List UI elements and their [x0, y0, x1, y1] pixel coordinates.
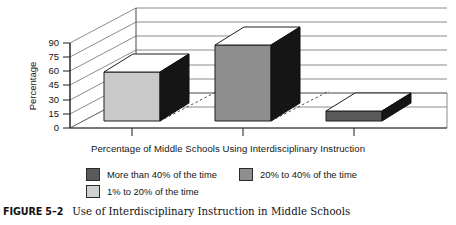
figure-caption-text: Use of Interdisciplinary Instruction in …	[72, 206, 350, 217]
chart-plot-area: 90 75 60 45 30 15 0 Percentage	[0, 0, 456, 140]
legend-entry-more-than-40[interactable]: More than 40% of the time	[86, 168, 217, 181]
legend-entry-20-to-40[interactable]: 20% to 40% of the time	[239, 168, 357, 181]
legend-label-1-to-20: 1% to 20% of the time	[107, 186, 199, 197]
bar-chart-svg: 90 75 60 45 30 15 0 Percentage	[0, 0, 456, 142]
legend-swatch-more-than-40	[86, 168, 100, 181]
legend-label-20-to-40: 20% to 40% of the time	[260, 169, 357, 180]
bar-3	[326, 93, 411, 121]
figure-number-label: FIGURE 5–2	[3, 206, 63, 217]
y-axis-ticks	[63, 43, 70, 128]
y-tick-label-75: 75	[48, 51, 59, 62]
figure-caption: FIGURE 5–2 Use of Interdisciplinary Inst…	[3, 206, 350, 217]
y-tick-label-0: 0	[54, 122, 59, 133]
x-axis-ticks	[132, 128, 354, 136]
figure-container: 90 75 60 45 30 15 0 Percentage Percentag…	[0, 0, 456, 225]
x-axis-title: Percentage of Middle Schools Using Inter…	[0, 143, 456, 154]
legend-entry-1-to-20[interactable]: 1% to 20% of the time	[86, 185, 199, 198]
y-tick-label-60: 60	[48, 65, 59, 76]
legend-label-more-than-40: More than 40% of the time	[107, 169, 217, 180]
bar-2	[215, 27, 300, 121]
legend-swatch-20-to-40	[239, 168, 253, 181]
y-tick-label-30: 30	[48, 94, 59, 105]
y-tick-label-45: 45	[48, 79, 59, 90]
legend-swatch-1-to-20	[86, 185, 100, 198]
chart-legend: More than 40% of the time 20% to 40% of …	[86, 166, 386, 200]
y-tick-label-15: 15	[48, 108, 59, 119]
y-tick-label-90: 90	[48, 37, 59, 48]
legend-row-2: 1% to 20% of the time	[86, 183, 386, 200]
y-axis-title: Percentage	[27, 62, 38, 111]
bar-1	[104, 54, 189, 121]
legend-row-1: More than 40% of the time 20% to 40% of …	[86, 166, 386, 183]
